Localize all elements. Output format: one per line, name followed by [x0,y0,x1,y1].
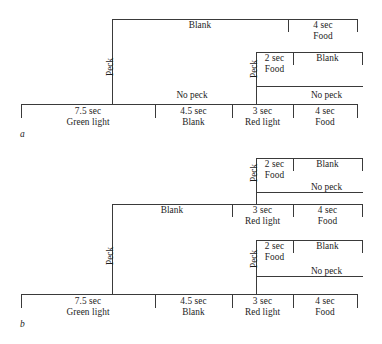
panel-b-base-seg-green: 7.5 sec Green light [21,296,155,317]
panel-a-base-seg-blank: 4.5 sec Blank [155,106,232,127]
panel-b-row2-seg-food: 4 sec Food [293,205,362,226]
panel-a-no-peck-line [256,86,363,87]
panel-b-peck-label-3: Peck [249,250,259,268]
panel-b-row3-seg-food2: 2 sec Food [256,241,293,262]
panel-a-peck-label-2: Peck [249,60,259,78]
panel-b-row3-seg-blank: Blank [293,241,362,252]
panel-a-baseline [21,104,358,105]
panel-b-no-peck-label-1: No peck [290,182,363,193]
panel-b-row2-seg-red: 3 sec Red light [232,205,293,226]
panel-a-row2-seg-blank: Blank [293,53,362,64]
panel-b-baseline [21,294,358,295]
figure-canvas: Blank 4 sec Food Peck 2 sec Food Blank P… [0,0,382,344]
panel-a-no-peck-label-2: No peck [290,90,363,101]
panel-b-no-peck-label-2: No peck [290,266,363,277]
panel-b-row1-seg-food2: 2 sec Food [256,159,293,180]
panel-b-base-seg-food: 4 sec Food [293,296,357,317]
panel-b-row1-tick-right [362,158,363,171]
panel-a-base-seg-red: 3 sec Red light [232,106,293,127]
panel-a-no-peck-label-1: No peck [128,90,256,101]
panel-a-row1-seg-food: 4 sec Food [288,20,358,41]
panel-b-peck-label-2: Peck [105,247,115,265]
panel-b-row3-tick-right [362,240,363,253]
panel-a-base-tick-4 [357,104,358,118]
panel-b-base-seg-red: 3 sec Red light [232,296,293,317]
panel-b-row1-seg-blank: Blank [293,159,362,170]
panel-b-base-tick-4 [357,294,358,308]
panel-a-row1-seg-blank: Blank [112,20,288,31]
panel-b-peck-label-1: Peck [249,164,259,182]
panel-b-row2-tick-right [362,204,363,217]
panel-a-letter: a [20,129,25,139]
panel-a-peck-label-1: Peck [105,58,115,76]
panel-a-base-seg-green: 7.5 sec Green light [21,106,155,127]
panel-a-row2-seg-food2: 2 sec Food [256,53,293,74]
panel-a-base-seg-food: 4 sec Food [293,106,357,127]
panel-b-base-seg-blank: 4.5 sec Blank [155,296,232,317]
panel-a-row2-tick-right [362,52,363,65]
panel-b-letter: b [20,319,25,329]
panel-b-row2-seg-blank: Blank [112,205,232,216]
